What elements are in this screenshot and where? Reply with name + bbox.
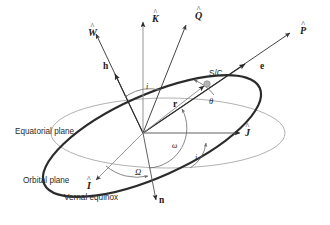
h-vector [115, 74, 143, 133]
r-vector-label: r [173, 100, 177, 110]
spacecraft-label: S/C [209, 70, 223, 78]
j-hat-accent: ^ [246, 122, 250, 131]
k-hat-accent: ^ [153, 8, 157, 17]
q-hat-label: ^ Q [195, 10, 202, 21]
spacecraft-marker [204, 81, 210, 87]
true-anomaly-label: θ [209, 97, 213, 106]
raan-label: Ω [135, 168, 141, 177]
n-vector [143, 133, 156, 200]
equatorial-plane-label: Equatorial plane [15, 128, 74, 136]
w-hat-accent: ^ [91, 22, 95, 31]
n-vector-label: n [159, 196, 164, 206]
raan-arc [106, 166, 148, 177]
h-vector-label: h [103, 62, 108, 72]
q-hat-accent: ^ [197, 5, 201, 14]
inclination-lower-label: i [195, 154, 197, 162]
p-hat-accent: ^ [301, 20, 305, 29]
j-hat-label: ^ J [245, 127, 250, 138]
arg-perigee-label: ω [172, 142, 177, 150]
e-vector-label: e [260, 62, 264, 72]
i-hat-accent: ^ [87, 175, 91, 184]
p-hat-label: ^ P [300, 25, 306, 36]
inclination-upper-label: i [146, 83, 148, 91]
w-hat-label: ^ W [88, 27, 97, 38]
orbital-plane-label: Orbital plane [23, 177, 69, 185]
k-hat-label: ^ K [152, 13, 159, 24]
vernal-equinox-label: Vernal equinox [64, 194, 118, 202]
i-hat-label: ^ I [87, 180, 91, 191]
arg-perigee-arc [149, 109, 187, 168]
diagram-canvas [0, 0, 330, 225]
orbital-elements-diagram: ^ W ^ K ^ Q ^ P ^ I ^ J h e n r i i Ω ω … [0, 0, 330, 225]
